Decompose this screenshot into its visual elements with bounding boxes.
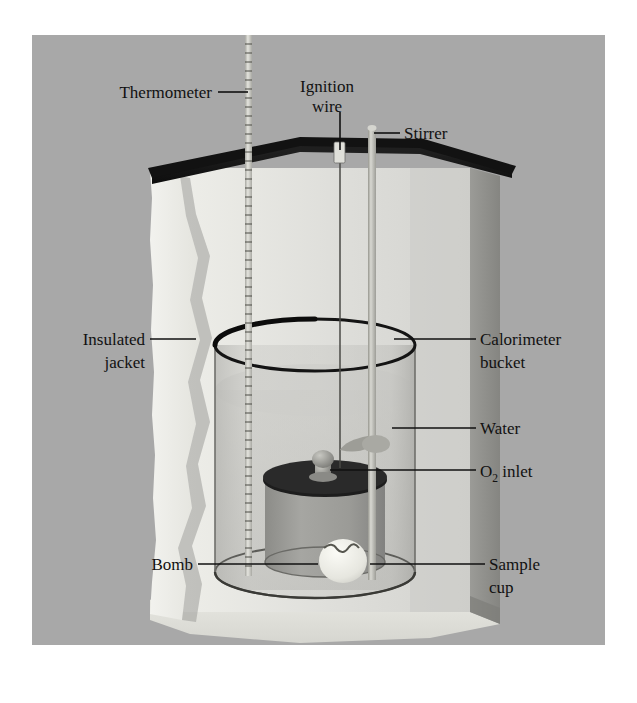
label-thermometer: Thermometer: [119, 83, 212, 102]
label-bomb: Bomb: [151, 555, 193, 574]
label-ignition-wire-line2: wire: [312, 97, 342, 116]
label-insulated-jacket-line2: jacket: [103, 353, 145, 372]
o2-inlet-knob: [312, 450, 334, 468]
label-o2-inlet: O2 inlet: [480, 462, 533, 484]
thermometer: [245, 35, 252, 576]
label-o2-inlet-tail: inlet: [498, 462, 533, 481]
label-sample-cup-line1: Sample: [489, 555, 540, 574]
stirrer-rod: [368, 128, 376, 580]
label-sample-cup-line2: cup: [489, 578, 514, 597]
label-o2-inlet-o: O: [480, 462, 492, 481]
label-calorimeter-bucket-line1: Calorimeter: [480, 330, 562, 349]
bomb-calorimeter-figure: Thermometer Ignition wire Stirrer Insula…: [0, 0, 637, 703]
label-stirrer: Stirrer: [404, 124, 448, 143]
label-calorimeter-bucket-line2: bucket: [480, 353, 526, 372]
label-insulated-jacket-line1: Insulated: [83, 330, 146, 349]
label-ignition-wire-line1: Ignition: [300, 77, 354, 96]
o2-inlet-base: [309, 472, 337, 482]
label-water: Water: [480, 419, 520, 438]
stirrer-rod-cap: [368, 125, 377, 131]
stirrer-paddle-right: [362, 435, 390, 453]
jacket-inner-shadow: [410, 168, 470, 612]
sample-cup: [319, 539, 367, 583]
